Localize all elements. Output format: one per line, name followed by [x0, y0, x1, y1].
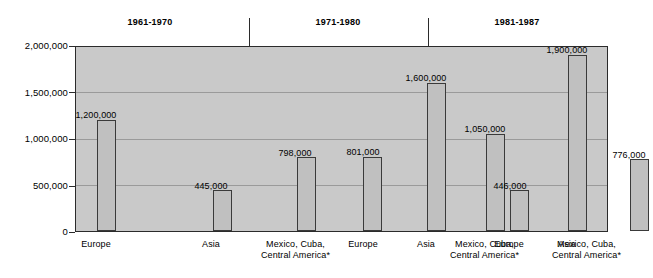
period-header-1961-1970: 1961-1970: [115, 17, 185, 27]
x-tick-label-1981-1987-europe: Europe: [479, 239, 539, 250]
bar-value-1981-1987-asia: 1,900,000: [537, 45, 597, 55]
bar-1971-1980-asia: [427, 83, 446, 231]
y-tick-label-500000: 500,000: [33, 180, 68, 191]
y-tick-label-1500000: 1,500,000: [25, 87, 68, 98]
bar-value-1971-1980-mexico: 1,050,000: [455, 124, 515, 134]
x-tick-line-2: Central America*: [438, 250, 531, 261]
y-tick-label-2000000: 2,000,000: [25, 40, 68, 51]
x-tick-line-1: Mexico, Cuba,: [249, 239, 342, 250]
gridline-1500000: [76, 92, 607, 93]
plot-area: [75, 46, 608, 232]
bar-value-1961-1970-asia: 445,000: [188, 181, 234, 191]
y-axis: 2,000,000 1,500,000 1,000,000 500,000 0: [0, 0, 68, 278]
bar-value-1961-1970-mexico: 798,000: [272, 148, 318, 158]
period-header-1971-1980: 1971-1980: [303, 17, 373, 27]
bar-value-1971-1980-asia: 1,600,000: [396, 73, 456, 83]
x-tick-label-1961-1970-asia: Asia: [188, 239, 234, 250]
x-tick-line-1: Mexico, Cuba,: [540, 239, 633, 250]
x-tick-line-2: Central America*: [540, 250, 633, 261]
x-tick-line-1: Europe: [333, 239, 393, 250]
x-tick-line-1: Asia: [188, 239, 234, 250]
x-tick-label-1961-1970-mexico: Mexico, Cuba, Central America*: [249, 239, 342, 261]
bar-1961-1970-mexico: [297, 157, 316, 231]
x-tick-label-1961-1970-europe: Europe: [66, 239, 126, 250]
bar-1961-1970-europe: [97, 120, 116, 231]
period-header-1981-1987: 1981-1987: [482, 17, 552, 27]
bar-value-1981-1987-europe: 446,000: [487, 181, 533, 191]
gridline-2000000: [76, 46, 607, 47]
x-tick-line-1: Europe: [66, 239, 126, 250]
y-tick-mark-0: [69, 232, 75, 233]
bar-value-1961-1970-europe: 1,200,000: [66, 110, 126, 120]
x-tick-line-1: Europe: [479, 239, 539, 250]
bar-1981-1987-europe: [510, 190, 529, 231]
bar-value-1971-1980-europe: 801,000: [340, 147, 386, 157]
gridline-1000000: [76, 139, 607, 140]
bar-1971-1980-europe: [363, 157, 382, 231]
x-tick-line-2: Central America*: [249, 250, 342, 261]
bar-1981-1987-mexico: [630, 159, 649, 231]
x-tick-label-1971-1980-europe: Europe: [333, 239, 393, 250]
x-tick-label-1981-1987-mexico: Mexico, Cuba, Central America*: [540, 239, 633, 261]
y-tick-label-1000000: 1,000,000: [25, 133, 68, 144]
bar-value-1981-1987-mexico: 776,000: [599, 150, 653, 160]
y-tick-label-0: 0: [63, 226, 68, 237]
bar-1981-1987-asia: [568, 55, 587, 231]
bar-1961-1970-asia: [213, 190, 232, 231]
